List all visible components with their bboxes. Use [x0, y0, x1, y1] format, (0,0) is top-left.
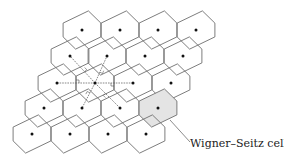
lattice-point	[94, 82, 97, 85]
lattice-figure: Wigner–Seitz cell	[0, 0, 284, 161]
right-angle-marker	[86, 92, 90, 95]
label-leader-line	[170, 120, 190, 142]
right-angle-marker	[103, 93, 105, 97]
wigner-seitz-label: Wigner–Seitz cell	[190, 137, 284, 150]
lattice-point	[119, 107, 122, 110]
lattice-point	[157, 29, 160, 32]
lattice-point	[195, 29, 198, 32]
lattice-point	[43, 107, 46, 110]
neighbor-connection-line	[95, 83, 120, 108]
lattice-point	[132, 82, 135, 85]
neighbor-connection-line	[95, 56, 107, 83]
neighbor-connection-line	[82, 83, 95, 108]
lattice-point	[81, 107, 84, 110]
lattice-point	[144, 55, 147, 58]
lattice-point	[170, 82, 173, 85]
lattice-point	[107, 133, 110, 136]
lattice-point	[145, 133, 148, 136]
lattice-point	[106, 55, 109, 58]
neighbor-connection-line	[70, 56, 95, 83]
lattice-point	[182, 55, 185, 58]
lattice-point	[119, 29, 122, 32]
lattice-point	[56, 82, 59, 85]
voronoi-cells	[13, 11, 215, 153]
lattice-point	[81, 29, 84, 32]
lattice-point	[157, 107, 160, 110]
lattice-point	[31, 133, 34, 136]
wigner-seitz-diagram: Wigner–Seitz cell	[0, 0, 284, 161]
lattice-point	[69, 55, 72, 58]
lattice-point	[69, 133, 72, 136]
